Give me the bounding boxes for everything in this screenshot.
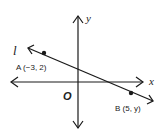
origin-label: O	[63, 90, 72, 102]
line-l	[28, 45, 153, 104]
point-a-dot	[42, 51, 46, 55]
point-a-label: A (−3, 2)	[16, 63, 47, 72]
point-b-dot	[129, 91, 133, 95]
point-b-label: B (5, y)	[115, 104, 141, 113]
line-label: l	[13, 43, 17, 58]
y-axis	[73, 16, 83, 128]
x-axis	[11, 77, 143, 87]
y-axis-label: y	[85, 12, 91, 24]
coordinate-plane: l A (−3, 2) O B (5, y) y x	[0, 0, 159, 137]
x-axis-label: x	[148, 75, 154, 87]
